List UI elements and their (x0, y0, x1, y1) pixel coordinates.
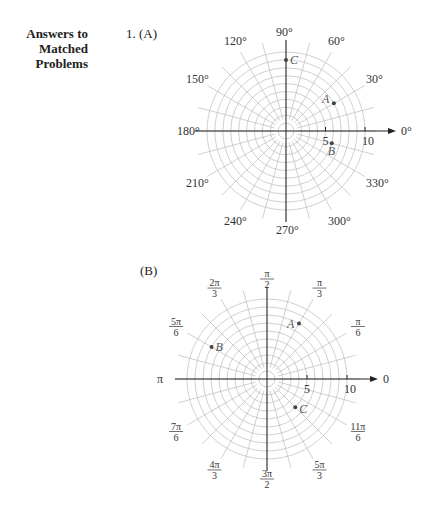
angle-label: 60° (328, 34, 345, 48)
point-A (332, 101, 336, 105)
angle-label: 210° (186, 176, 209, 190)
grid-radial (222, 67, 278, 123)
point-label: B (328, 144, 336, 158)
polar-charts: 5100°30°60°90°120°150°180°210°240°270°30… (0, 0, 434, 521)
angle-label: 0° (401, 124, 412, 138)
angle-label: π (355, 316, 360, 327)
angle-label: 240° (224, 214, 247, 228)
svg-text:3: 3 (317, 288, 322, 299)
angle-label: 11π (351, 421, 366, 432)
svg-text:6: 6 (355, 432, 360, 443)
angle-label: 300° (328, 214, 351, 228)
point-B (210, 345, 214, 349)
svg-text:6: 6 (174, 327, 179, 338)
svg-text:3: 3 (212, 470, 217, 481)
svg-text:3: 3 (212, 288, 217, 299)
svg-text:2: 2 (265, 279, 270, 290)
grid-radial (222, 139, 278, 195)
angle-label: 3π (262, 468, 272, 479)
angle-label: 5π (314, 459, 324, 470)
angle-label: 120° (224, 34, 247, 48)
radial-tick-label: 10 (362, 134, 374, 148)
angle-label: 180° (177, 124, 200, 138)
radial-tick-label: 5 (304, 382, 310, 396)
point-A (297, 322, 301, 326)
svg-text:6: 6 (174, 432, 179, 443)
grid-radial (202, 314, 259, 371)
svg-text:6: 6 (355, 327, 360, 338)
point-label: C (290, 53, 299, 67)
svg-text:3: 3 (317, 470, 322, 481)
angle-label: 4π (209, 459, 219, 470)
angle-label: 7π (171, 421, 181, 432)
axis-arrow-icon (388, 128, 396, 134)
point-C (284, 58, 288, 62)
angle-label: 0 (383, 372, 389, 386)
angle-label: 150° (186, 72, 209, 86)
angle-label: π (317, 277, 322, 288)
angle-label: 30° (366, 72, 383, 86)
point-label: C (299, 402, 308, 416)
angle-label: 330° (366, 176, 389, 190)
point-C (293, 405, 297, 409)
point-label: A (321, 92, 330, 106)
radial-tick-label: 10 (344, 382, 356, 396)
angle-label: 270° (276, 223, 299, 237)
point-label: A (286, 317, 295, 331)
grid-radial (275, 314, 332, 371)
point-label: B (216, 340, 224, 354)
angle-label: π (264, 268, 269, 279)
grid-radial (202, 387, 259, 444)
angle-label: 90° (276, 25, 293, 39)
axis-arrow-icon (370, 376, 378, 382)
angle-label: π (157, 372, 163, 386)
angle-label: 5π (171, 316, 181, 327)
svg-text:2: 2 (265, 479, 270, 490)
angle-label: 2π (209, 277, 219, 288)
